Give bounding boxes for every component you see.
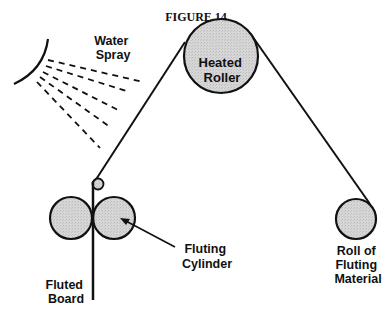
fluting-web-right	[250, 33, 370, 204]
fluting-cylinder-label: Fluting Cylinder	[182, 242, 232, 271]
fluting-cylinder-pointer	[124, 220, 175, 247]
left-cylinder	[50, 197, 92, 239]
fluted-board-label: Fluted Board	[46, 278, 87, 306]
roll-of-fluting-material-label: Roll of Fluting Material	[334, 244, 381, 286]
roll-of-fluting-material	[336, 199, 376, 239]
heated-roller-label: Heated Roller	[199, 55, 246, 85]
fluting-cylinder	[93, 197, 135, 239]
figure-14-diagram: FIGURE 14 Water Spray Heated Roller Roll…	[0, 0, 392, 314]
spray-nozzle-icon	[14, 39, 48, 84]
water-spray-label: Water Spray	[94, 34, 132, 62]
water-spray-dashes	[37, 60, 143, 148]
fluting-web-left	[95, 42, 185, 181]
